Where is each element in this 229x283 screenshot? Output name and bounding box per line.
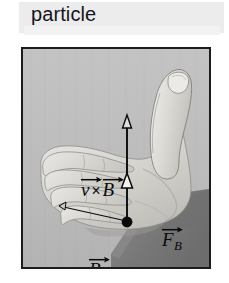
v-vector-symbol: v	[81, 180, 89, 199]
magnetic-force-label: F B	[162, 230, 182, 253]
force-subscript: B	[174, 238, 182, 253]
origin-point	[122, 217, 133, 228]
f-vector-symbol: F	[162, 230, 174, 249]
b-field-symbol: B	[89, 260, 101, 269]
b-vector-symbol: B	[103, 180, 115, 199]
caption-text: particle	[31, 1, 96, 28]
cross-product-operator: ×	[89, 182, 102, 199]
v-cross-b-label: v ×B	[81, 180, 114, 199]
b-field-label: B	[89, 260, 101, 269]
figure-frame: v ×B F B B	[21, 47, 211, 269]
